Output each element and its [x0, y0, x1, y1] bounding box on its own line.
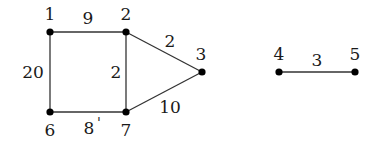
edge-weight-2-3: 2: [165, 31, 176, 51]
node-2: [122, 28, 129, 35]
node-1: [46, 28, 53, 35]
node-label-1: 1: [45, 4, 56, 24]
edge-weight-7-3: 10: [159, 97, 181, 117]
edge-weight-2-7: 2: [111, 62, 122, 82]
node-label-5: 5: [350, 44, 361, 64]
node-5: [351, 68, 358, 75]
node-label-6: 6: [45, 120, 56, 140]
node-label-2: 2: [121, 4, 132, 24]
edge-weight-4-5: 3: [312, 50, 323, 70]
node-label-4: 4: [274, 44, 285, 64]
node-label-3: 3: [196, 44, 207, 64]
graph-diagram: 922208'103 1234567: [0, 0, 375, 147]
edge-mark-6-7: ': [97, 115, 101, 131]
node-4: [275, 68, 282, 75]
node-7: [122, 108, 129, 115]
edge-weight-1-2: 9: [83, 8, 94, 28]
edge-weight-1-6: 20: [22, 62, 44, 82]
node-6: [46, 108, 53, 115]
node-label-7: 7: [121, 120, 132, 140]
edge-weight-6-7: 8: [84, 118, 95, 138]
node-3: [198, 68, 205, 75]
